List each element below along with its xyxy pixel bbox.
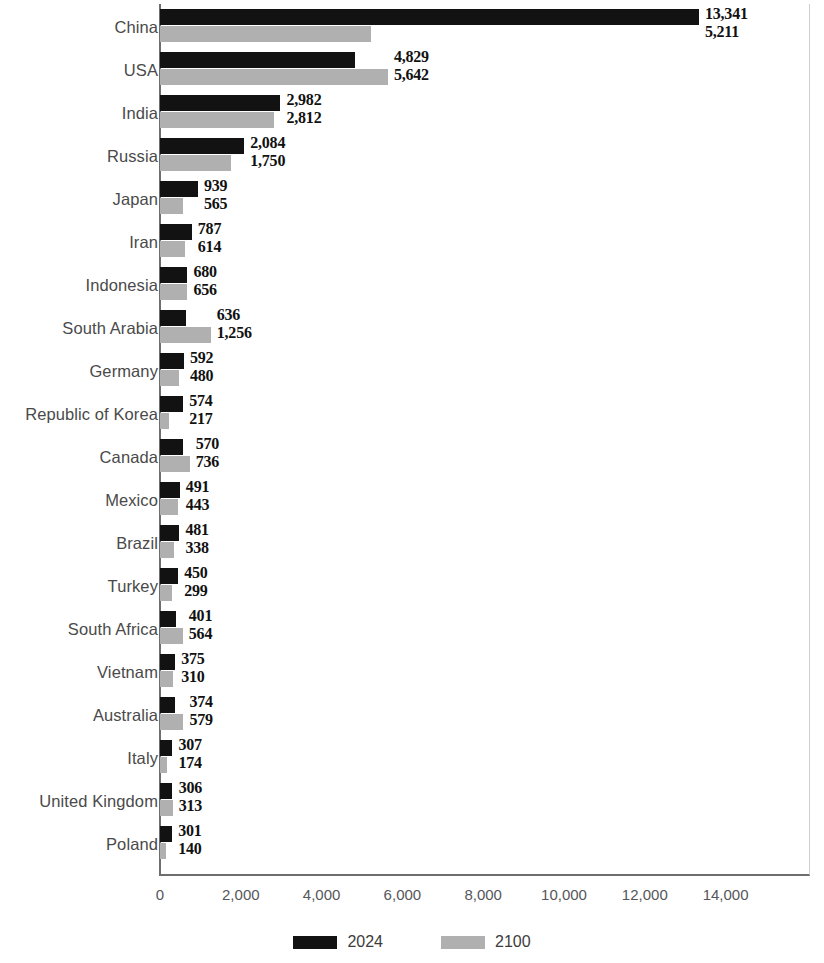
bar-value-2100: 736: [196, 453, 219, 471]
bar-group: 6361,256: [160, 309, 820, 349]
bar-2024: [160, 310, 186, 326]
bar-group: 680656: [160, 266, 820, 306]
legend-swatch-icon: [441, 936, 485, 949]
bar-2024: [160, 439, 183, 455]
bar-value-2024: 636: [217, 306, 240, 324]
category-label: Italy: [0, 744, 158, 772]
bar-row: USA4,8295,642: [0, 49, 824, 92]
bar-row: Indonesia680656: [0, 264, 824, 307]
bar-2024: [160, 697, 175, 713]
bar-value-2024: 787: [198, 220, 221, 238]
bar-row: Germany592480: [0, 350, 824, 393]
bar-value-2024: 491: [186, 478, 209, 496]
bar-2024: [160, 525, 179, 541]
bar-value-2024: 2,084: [250, 134, 285, 152]
legend-label: 2024: [347, 933, 383, 951]
bar-group: 574217: [160, 395, 820, 435]
category-label: Mexico: [0, 486, 158, 514]
bar-value-2024: 306: [179, 779, 202, 797]
bar-group: 592480: [160, 352, 820, 392]
bar-row: Australia374579: [0, 694, 824, 737]
category-label: India: [0, 99, 158, 127]
x-tick-label: 4,000: [303, 886, 341, 903]
bar-2100: [160, 327, 211, 343]
bar-value-2024: 13,341: [705, 5, 748, 23]
bar-2100: [160, 241, 185, 257]
bar-group: 570736: [160, 438, 820, 478]
legend-item[interactable]: 2024: [293, 933, 383, 951]
bar-group: 491443: [160, 481, 820, 521]
bar-row: Russia2,0841,750: [0, 135, 824, 178]
category-label: Brazil: [0, 529, 158, 557]
bar-2100: [160, 757, 167, 773]
bar-value-2024: 374: [189, 693, 212, 711]
category-label: Turkey: [0, 572, 158, 600]
bar-value-2100: 1,256: [217, 324, 252, 342]
bar-2100: [160, 714, 183, 730]
bar-row: South Arabia6361,256: [0, 307, 824, 350]
bar-value-2024: 301: [178, 822, 201, 840]
legend-swatch-icon: [293, 936, 337, 949]
bar-group: 450299: [160, 567, 820, 607]
bar-value-2100: 310: [181, 668, 204, 686]
bar-2100: [160, 155, 231, 171]
bar-2100: [160, 843, 166, 859]
bar-chart: China13,3415,211USA4,8295,642India2,9822…: [0, 0, 824, 963]
category-label: South Arabia: [0, 314, 158, 342]
bar-row: India2,9822,812: [0, 92, 824, 135]
bar-group: 301140: [160, 825, 820, 865]
bar-group: 13,3415,211: [160, 8, 820, 48]
bar-value-2100: 565: [204, 195, 227, 213]
bar-value-2100: 217: [189, 410, 212, 428]
bar-row: Vietnam375310: [0, 651, 824, 694]
x-tick-label: 6,000: [384, 886, 422, 903]
category-label: Republic of Korea: [0, 400, 158, 428]
bar-group: 4,8295,642: [160, 51, 820, 91]
x-tick-label: 10,000: [541, 886, 587, 903]
bar-2024: [160, 95, 280, 111]
bar-value-2100: 5,642: [394, 66, 429, 84]
bar-value-2100: 174: [178, 754, 201, 772]
bar-2100: [160, 671, 173, 687]
x-axis: 02,0004,0006,0008,00010,00012,00014,000: [0, 884, 824, 914]
bar-2100: [160, 499, 178, 515]
bar-group: 939565: [160, 180, 820, 220]
bar-row: Japan939565: [0, 178, 824, 221]
bar-2100: [160, 800, 173, 816]
bar-row: Brazil481338: [0, 522, 824, 565]
bar-2024: [160, 783, 172, 799]
bar-2100: [160, 456, 190, 472]
bar-group: 306313: [160, 782, 820, 822]
bar-value-2100: 579: [189, 711, 212, 729]
bar-row: Poland301140: [0, 823, 824, 866]
bar-value-2100: 338: [185, 539, 208, 557]
bar-2024: [160, 138, 244, 154]
x-tick-label: 8,000: [464, 886, 502, 903]
bar-2024: [160, 396, 183, 412]
x-tick-label: 2,000: [222, 886, 260, 903]
bar-2100: [160, 69, 388, 85]
bar-value-2024: 307: [178, 736, 201, 754]
bar-value-2024: 481: [185, 521, 208, 539]
bar-value-2100: 564: [189, 625, 212, 643]
bar-group: 307174: [160, 739, 820, 779]
bar-row: Iran787614: [0, 221, 824, 264]
bar-2024: [160, 568, 178, 584]
bar-2100: [160, 112, 274, 128]
bar-value-2024: 375: [181, 650, 204, 668]
bar-2024: [160, 654, 175, 670]
x-tick-label: 14,000: [703, 886, 749, 903]
bar-2024: [160, 482, 180, 498]
legend-item[interactable]: 2100: [441, 933, 531, 951]
category-label: United Kingdom: [0, 787, 158, 815]
bar-value-2100: 656: [193, 281, 216, 299]
bar-row: South Africa401564: [0, 608, 824, 651]
bar-group: 481338: [160, 524, 820, 564]
bar-value-2024: 574: [189, 392, 212, 410]
bar-row: Mexico491443: [0, 479, 824, 522]
bar-group: 374579: [160, 696, 820, 736]
bar-rows: China13,3415,211USA4,8295,642India2,9822…: [0, 6, 824, 866]
category-label: Germany: [0, 357, 158, 385]
x-tick-label: 12,000: [622, 886, 668, 903]
bar-group: 401564: [160, 610, 820, 650]
